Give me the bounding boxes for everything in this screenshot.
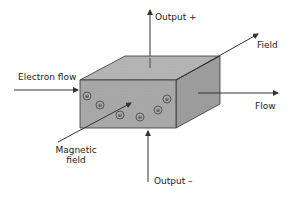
- label-electron-flow: Electron flow: [18, 72, 76, 82]
- svg-text:e: e: [165, 95, 169, 102]
- label-output-minus: Output –: [154, 176, 193, 186]
- svg-text:e: e: [118, 111, 122, 118]
- label-magnetic-field-line2: field: [66, 155, 85, 165]
- hall-effect-diagram: e e e e e e Output + Field Electron flow…: [0, 0, 297, 205]
- svg-text:e: e: [156, 106, 160, 113]
- svg-text:e: e: [98, 101, 102, 108]
- svg-text:e: e: [85, 92, 89, 99]
- label-field: Field: [257, 40, 278, 50]
- svg-text:e: e: [138, 113, 142, 120]
- label-magnetic-field-line1: Magnetic: [55, 145, 96, 155]
- label-flow: Flow: [255, 101, 276, 111]
- label-output-plus: Output +: [155, 12, 197, 22]
